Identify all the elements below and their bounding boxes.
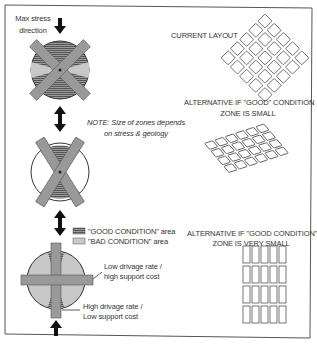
label-line: high support cost bbox=[104, 272, 162, 281]
legend-good-swatch bbox=[73, 228, 85, 234]
low-drivage-label: Low drivage rate / high support cost bbox=[104, 262, 162, 281]
label-line: ZONE IS SMALL bbox=[184, 109, 312, 118]
arrow-down-icon bbox=[54, 18, 66, 34]
diagram-canvas bbox=[0, 0, 317, 352]
current-layout-label: CURRENT LAYOUT bbox=[171, 31, 238, 40]
alt-small-label: ALTERNATIVE IF "GOOD" CONDITION ZONE IS … bbox=[184, 98, 312, 118]
pillar-grid-alt-small bbox=[205, 124, 289, 172]
label-line: Low drivage rate / bbox=[104, 262, 162, 271]
alt-very-small-label: ALTERNATIVE IF "GOOD CONDITION" ZONE IS … bbox=[187, 229, 315, 248]
legend-bad-label: "BAD CONDITION" area bbox=[88, 237, 168, 246]
label-line: on stress & geology bbox=[84, 129, 188, 138]
max-stress-label: Max stress direction bbox=[14, 14, 52, 35]
double-arrow-icon bbox=[54, 210, 66, 236]
note-label: NOTE: Size of zones depends on stress & … bbox=[84, 118, 188, 138]
diagram-stage: Max stress direction CURRENT LAYOUT ALTE… bbox=[0, 0, 317, 352]
label-line: Max stress bbox=[14, 14, 52, 23]
stress-circle-2 bbox=[31, 137, 89, 207]
label-line: High drivage rate / bbox=[83, 302, 142, 311]
pointer-line bbox=[93, 272, 102, 279]
label-line: ZONE IS VERY SMALL bbox=[187, 239, 315, 248]
pillar-grid-alt-very-small bbox=[243, 246, 286, 323]
label-line: direction bbox=[14, 26, 52, 35]
label-line: ALTERNATIVE IF "GOOD" CONDITION bbox=[184, 98, 312, 107]
label-line: Low support cost bbox=[83, 312, 142, 321]
legend-bad-swatch bbox=[73, 238, 85, 244]
legend-good-label: "GOOD CONDITION" area bbox=[88, 227, 175, 236]
double-arrow-icon bbox=[54, 106, 66, 132]
label-line: ALTERNATIVE IF "GOOD CONDITION" bbox=[187, 229, 315, 238]
high-drivage-label: High drivage rate / Low support cost bbox=[83, 302, 142, 321]
pillar-grid-current bbox=[221, 14, 309, 102]
arrow-up-icon bbox=[50, 320, 62, 336]
stress-circle-1 bbox=[30, 40, 91, 101]
label-line: NOTE: Size of zones depends bbox=[84, 118, 188, 127]
